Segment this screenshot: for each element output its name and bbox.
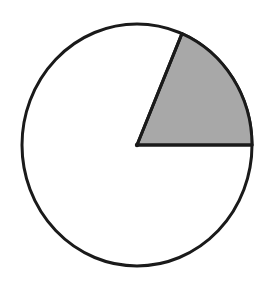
center-point xyxy=(135,143,139,147)
figure-canvas xyxy=(0,0,271,283)
circle-sector-diagram xyxy=(0,0,271,283)
